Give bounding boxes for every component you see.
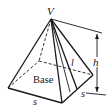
hidden-edge-back [39, 61, 93, 75]
arrow-up-icon [95, 34, 99, 39]
arrow-down-icon [95, 87, 99, 92]
height-extension-bottom [86, 93, 106, 95]
slant-height-line [51, 19, 77, 89]
apex-label: V [47, 5, 55, 17]
side-label-right: s [81, 88, 85, 99]
height-extension-top [51, 19, 102, 33]
height-label: h [93, 56, 99, 68]
base-label: Base [33, 74, 54, 85]
hidden-lateral-edge [39, 19, 51, 61]
square-pyramid-diagram: V Base l h s s [0, 0, 110, 108]
face-inner-line [51, 19, 70, 92]
side-label-front: s [33, 96, 37, 107]
slant-height-label: l [71, 57, 74, 68]
